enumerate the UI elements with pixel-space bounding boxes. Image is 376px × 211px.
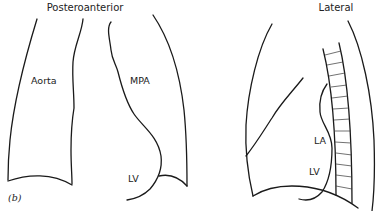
lv-label-pa: LV [128, 173, 139, 184]
aorta-right-border [71, 19, 83, 184]
aorta-bottom-border [8, 176, 72, 185]
lateral-view: Lateral LA LV [246, 2, 375, 211]
lateral-diagonal-line [246, 78, 303, 156]
pa-right-border [153, 15, 187, 186]
spine-back-line [339, 43, 352, 203]
la-label: LA [314, 135, 327, 146]
lv-label-lateral: LV [309, 166, 320, 177]
mpa-label: MPA [130, 75, 150, 86]
panel-label: (b) [8, 192, 22, 203]
pa-view-title: Posteroanterior [47, 2, 125, 13]
aorta-label: Aorta [31, 75, 57, 86]
pa-bottom-right-border [159, 175, 187, 186]
lateral-anterior-border [246, 24, 272, 196]
aorta-left-border [8, 19, 37, 180]
lateral-diaphragm-border [253, 186, 358, 208]
lateral-view-title: Lateral [319, 2, 354, 13]
cardiac-silhouette-diagram: Posteroanterior Aorta MPA LV (b) Lateral [0, 0, 376, 211]
pa-view: Posteroanterior Aorta MPA LV [8, 2, 187, 200]
